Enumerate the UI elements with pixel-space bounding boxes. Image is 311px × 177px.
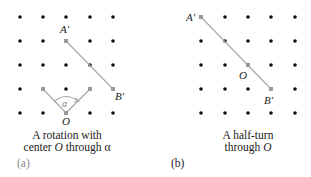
tag-a: (a) (17, 157, 30, 169)
label-a-prime: A′ (60, 23, 69, 35)
segments-b (201, 17, 271, 89)
tag-b: (b) (171, 157, 184, 169)
caption-b: A half-turn through O (208, 129, 288, 153)
label-o-b: O (239, 69, 247, 81)
label-o: O (62, 115, 70, 127)
gray-points-a (41, 39, 115, 115)
label-alpha: α (62, 98, 67, 109)
caption-a-line2: center O through α (17, 141, 117, 153)
label-b-prime-b: B′ (264, 94, 273, 106)
label-b-prime: B′ (115, 90, 124, 102)
caption-a-line1: A rotation with (17, 129, 117, 141)
caption-b-line2: through O (208, 141, 288, 153)
caption-b-line1: A half-turn (208, 129, 288, 141)
segments-a (43, 41, 113, 113)
label-a-prime-b: A′ (186, 11, 195, 23)
caption-a: A rotation with center O through α (17, 129, 117, 153)
